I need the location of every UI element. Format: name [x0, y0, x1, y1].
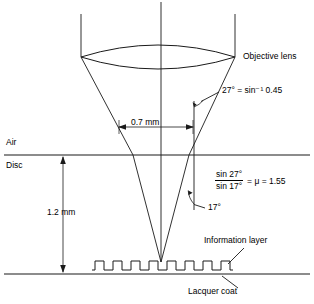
diagram-canvas — [0, 0, 314, 304]
beam-width-label: 0.7 mm — [131, 118, 159, 128]
information-layer-pits — [92, 261, 233, 270]
objective-lens-top — [81, 45, 235, 57]
snell-numerator: sin 27° — [215, 170, 243, 180]
snell-denominator: sin 17° — [215, 181, 243, 191]
objective-lens-label: Objective lens — [243, 52, 296, 62]
converging-ray-left-air — [81, 57, 133, 155]
thickness-arrow-bottom — [60, 265, 66, 273]
disc-label: Disc — [6, 161, 23, 171]
lacquer-coat-label: Lacquer coat — [188, 287, 237, 297]
information-layer-label: Information layer — [204, 236, 267, 246]
refracted-ray-left — [133, 155, 161, 262]
angle-arc-17-arrowhead — [188, 191, 192, 196]
information-layer-leader — [228, 248, 244, 264]
angle-17-leader — [194, 205, 205, 209]
optical-diagram: Objective lens 27° = sin⁻¹ 0.45 0.7 mm A… — [0, 0, 314, 304]
snell-formula: sin 27° sin 17° = μ = 1.55 — [215, 170, 286, 192]
refracted-ray-right — [161, 155, 189, 262]
snell-result: = μ = 1.55 — [247, 176, 285, 186]
angle-17-label: 17° — [208, 203, 221, 213]
objective-lens-bottom — [81, 57, 235, 69]
thickness-label: 1.2 mm — [47, 208, 75, 218]
snell-fraction: sin 27° sin 17° — [215, 170, 243, 192]
thickness-arrow-top — [60, 156, 66, 164]
angle-27-label: 27° = sin⁻¹ 0.45 — [222, 86, 282, 96]
air-label: Air — [6, 138, 16, 148]
